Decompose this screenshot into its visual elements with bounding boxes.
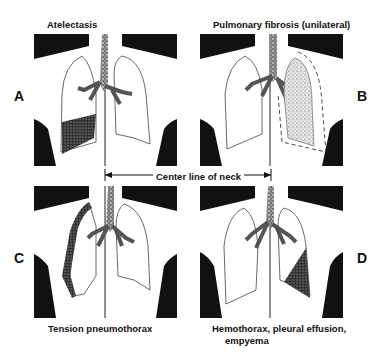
panel-b-letter: B [357,88,367,104]
panel-b-title: Pulmonary fibrosis (unilateral) [213,19,350,30]
panel-d-title-line1: Hemothorax, pleural effusion, [212,323,346,334]
panel-d-title-line2: empyema [225,335,269,346]
panel-a-letter: A [14,88,24,104]
panel-d-letter: D [357,250,367,266]
panel-a-atelectasis [34,34,177,166]
panel-c-title: Tension pneumothorax [48,323,152,334]
panel-d-hemothorax-effusion [200,186,343,318]
panel-a-title: Atelectasis [47,19,97,30]
panel-c-letter: C [14,250,24,266]
panel-b-pulmonary-fibrosis [200,34,343,166]
center-line-label: Center line of neck [153,171,244,182]
panel-c-tension-pneumothorax [34,186,177,318]
